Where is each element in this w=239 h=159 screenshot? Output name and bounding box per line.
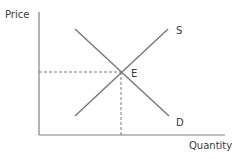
supply-demand-diagram: Price Quantity S D E <box>0 0 239 159</box>
demand-label: D <box>176 117 184 128</box>
x-axis-label: Quantity <box>189 140 232 151</box>
y-axis-label: Price <box>5 9 29 20</box>
equilibrium-label: E <box>131 68 137 79</box>
supply-label: S <box>176 25 182 36</box>
